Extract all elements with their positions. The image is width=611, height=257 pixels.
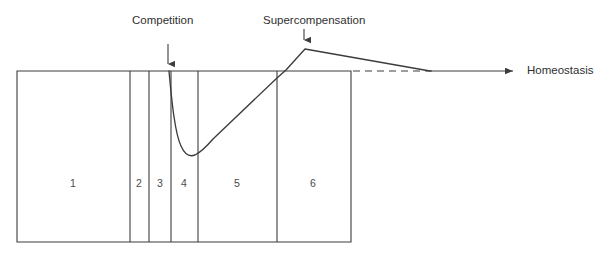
phase-number-1: 1 [70,178,76,189]
competition-label: Competition [132,15,193,27]
phase-number-6: 6 [310,178,316,189]
diagram-canvas [0,0,611,257]
supercompensation-label: Supercompensation [263,15,365,27]
phase-dividers [130,71,277,242]
phase-number-2: 2 [136,178,142,189]
phase-box [17,71,351,242]
phase-box-outline [17,71,351,242]
phase-number-3: 3 [157,178,163,189]
phase-number-4: 4 [181,178,187,189]
phase-number-5: 5 [234,178,240,189]
homeostasis-label: Homeostasis [527,65,593,77]
performance-capacity-curve [169,49,430,156]
supercompensation-diagram: Competition Supercompensation Homeostasi… [0,0,611,257]
